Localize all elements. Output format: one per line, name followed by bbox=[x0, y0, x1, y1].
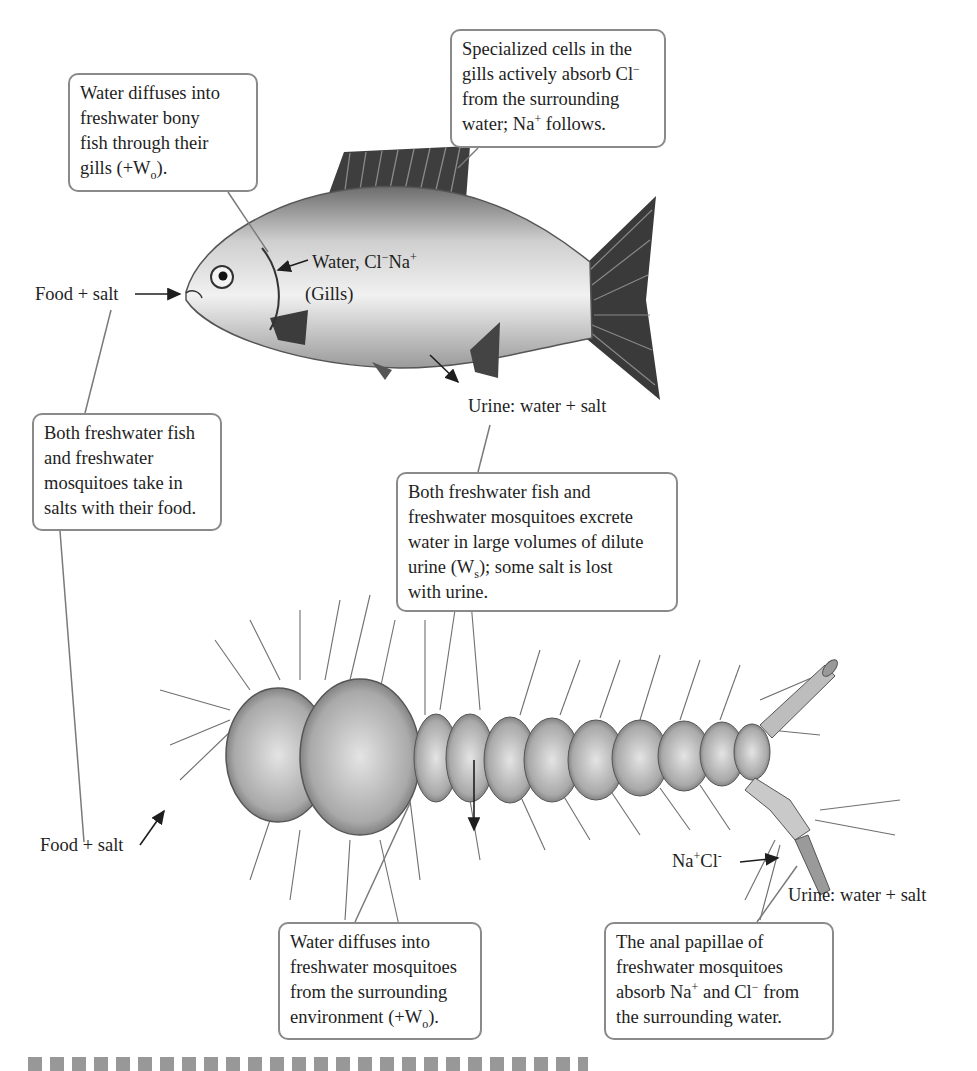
text: gills actively absorb Cl bbox=[462, 64, 633, 84]
callout-line: from the surrounding bbox=[462, 87, 654, 112]
callout-line: The anal papillae of bbox=[616, 930, 822, 955]
callout-line: environment (+Wo). bbox=[290, 1005, 470, 1030]
callout-line: freshwater mosquitoes bbox=[290, 955, 470, 980]
superscript: - bbox=[718, 849, 722, 863]
mosquito-larva-illustration bbox=[160, 590, 900, 930]
text: Na bbox=[672, 851, 694, 871]
text: gills (+W bbox=[80, 158, 151, 178]
callout-line: absorb Na+ and Cl− from bbox=[616, 980, 822, 1005]
superscript: − bbox=[633, 62, 640, 76]
text: ). bbox=[157, 158, 168, 178]
callout-line: the surrounding water. bbox=[616, 1005, 822, 1030]
text: environment (+W bbox=[290, 1007, 422, 1027]
text: water; Na bbox=[462, 114, 534, 134]
label-fish-food-salt: Food + salt bbox=[35, 283, 118, 305]
superscript: + bbox=[410, 250, 417, 264]
callout-line: and freshwater bbox=[44, 446, 210, 471]
callout-line: urine (Ws); some salt is lost bbox=[408, 555, 666, 580]
callout-line: Specialized cells in the bbox=[462, 37, 654, 62]
clipped-figure-caption bbox=[28, 1057, 588, 1071]
callout-fish-gill-water: Water diffuses into freshwater bony fish… bbox=[68, 73, 258, 192]
callout-line: Water diffuses into bbox=[80, 81, 246, 106]
callout-line: Both freshwater fish bbox=[44, 421, 210, 446]
callout-line: salts with their food. bbox=[44, 496, 210, 521]
text: and Cl bbox=[698, 982, 751, 1002]
label-mosquito-food-salt: Food + salt bbox=[40, 834, 123, 856]
label-fish-urine: Urine: water + salt bbox=[468, 395, 606, 417]
label-mosquito-urine: Urine: water + salt bbox=[788, 884, 926, 906]
callout-line: gills (+Wo). bbox=[80, 156, 246, 181]
callout-mosquito-water: Water diffuses into freshwater mosquitoe… bbox=[278, 922, 482, 1040]
text: from bbox=[759, 982, 800, 1002]
callout-line: freshwater mosquitoes bbox=[616, 955, 822, 980]
callout-anal-papillae: The anal papillae of freshwater mosquito… bbox=[604, 922, 834, 1040]
callout-urine-excrete: Both freshwater fish and freshwater mosq… bbox=[396, 472, 678, 612]
superscript: − bbox=[752, 980, 759, 994]
callout-line: freshwater mosquitoes excrete bbox=[408, 505, 666, 530]
text: Water, Cl bbox=[312, 252, 382, 272]
callout-line: gills actively absorb Cl− bbox=[462, 62, 654, 87]
callout-gill-cells: Specialized cells in the gills actively … bbox=[450, 29, 666, 148]
callout-line: mosquitoes take in bbox=[44, 471, 210, 496]
callout-line: from the surrounding bbox=[290, 980, 470, 1005]
text: ); some salt is lost bbox=[479, 557, 613, 577]
text: Na bbox=[388, 252, 410, 272]
callout-line: water in large volumes of dilute bbox=[408, 530, 666, 555]
callout-line: Both freshwater fish and bbox=[408, 480, 666, 505]
text: follows. bbox=[541, 114, 606, 134]
callout-line: fish through their bbox=[80, 131, 246, 156]
callout-line: water; Na+ follows. bbox=[462, 112, 654, 137]
text: ). bbox=[428, 1007, 439, 1027]
callout-line: freshwater bony bbox=[80, 106, 246, 131]
label-mosquito-ions: Na+Cl- bbox=[672, 850, 722, 872]
text: Cl bbox=[700, 851, 717, 871]
label-fish-gill-ions: Water, Cl−Na+ bbox=[312, 251, 417, 273]
label-fish-gills: (Gills) bbox=[305, 283, 353, 305]
callout-line: with urine. bbox=[408, 580, 666, 605]
callout-line: Water diffuses into bbox=[290, 930, 470, 955]
callout-food-salts: Both freshwater fish and freshwater mosq… bbox=[32, 413, 222, 531]
text: absorb Na bbox=[616, 982, 692, 1002]
text: urine (W bbox=[408, 557, 474, 577]
